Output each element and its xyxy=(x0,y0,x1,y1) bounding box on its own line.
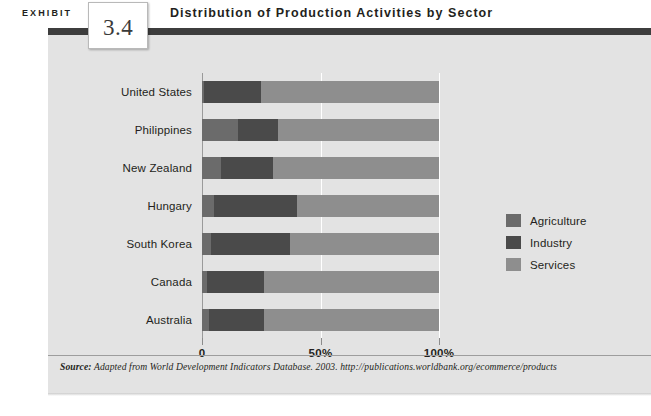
bar-segment-industry xyxy=(238,119,278,141)
stacked-bar xyxy=(202,309,439,331)
source-divider xyxy=(48,355,651,356)
chart-row: New Zealand xyxy=(48,149,651,187)
category-label: South Korea xyxy=(52,225,202,263)
bar-segment-industry xyxy=(207,271,264,293)
tickmark-0 xyxy=(202,338,203,345)
stacked-bar xyxy=(202,233,439,255)
category-label: Philippines xyxy=(52,111,202,149)
tickmark-50% xyxy=(321,338,322,345)
bar-segment-agriculture xyxy=(202,119,238,141)
axis-tick-label: 0 xyxy=(199,347,206,359)
legend-label: Services xyxy=(530,259,575,271)
legend-swatch-industry xyxy=(506,236,521,249)
legend-label: Agriculture xyxy=(530,215,587,227)
bar-segment-services xyxy=(261,81,439,103)
legend-item: Services xyxy=(506,255,636,274)
legend-label: Industry xyxy=(530,237,572,249)
bar-segment-services xyxy=(297,195,439,217)
exhibit-title: Distribution of Production Activities by… xyxy=(170,6,493,20)
bar-segment-agriculture xyxy=(202,233,211,255)
category-label: Hungary xyxy=(52,187,202,225)
exhibit-number-badge: 3.4 xyxy=(88,2,148,49)
source-prefix: Source: xyxy=(60,361,92,372)
stacked-bar xyxy=(202,271,439,293)
panel-shadow xyxy=(48,393,651,396)
source-note: Source: Adapted from World Development I… xyxy=(60,361,645,372)
source-text: Adapted from World Development Indicator… xyxy=(94,361,557,372)
bar-segment-services xyxy=(278,119,439,141)
legend-item: Industry xyxy=(506,233,636,252)
stacked-bar xyxy=(202,81,439,103)
figure-panel: 050%100%United StatesPhilippinesNew Zeal… xyxy=(48,35,651,393)
axis-tick-label: 100% xyxy=(424,347,455,359)
chart-row: United States xyxy=(48,73,651,111)
exhibit-word: EXHIBIT xyxy=(22,8,72,18)
stacked-bar xyxy=(202,157,439,179)
bar-segment-industry xyxy=(209,309,264,331)
legend-swatch-services xyxy=(506,258,521,271)
chart-legend: AgricultureIndustryServices xyxy=(506,211,636,277)
bar-segment-industry xyxy=(221,157,273,179)
bar-segment-services xyxy=(273,157,439,179)
stacked-bar xyxy=(202,119,439,141)
exhibit-number: 3.4 xyxy=(89,3,147,48)
chart-row: Philippines xyxy=(48,111,651,149)
category-label: Canada xyxy=(52,263,202,301)
bar-segment-industry xyxy=(204,81,261,103)
legend-swatch-agriculture xyxy=(506,214,521,227)
bar-segment-services xyxy=(264,271,439,293)
bar-segment-services xyxy=(290,233,439,255)
bar-segment-services xyxy=(264,309,439,331)
category-label: New Zealand xyxy=(52,149,202,187)
axis-tick-label: 50% xyxy=(309,347,333,359)
chart-plot-area: 050%100%United StatesPhilippinesNew Zeal… xyxy=(48,35,651,355)
bar-segment-industry xyxy=(211,233,289,255)
bar-segment-agriculture xyxy=(202,157,221,179)
tickmark-100% xyxy=(439,338,440,345)
legend-item: Agriculture xyxy=(506,211,636,230)
stacked-bar xyxy=(202,195,439,217)
category-label: Australia xyxy=(52,301,202,339)
bar-segment-industry xyxy=(214,195,297,217)
chart-row: Australia xyxy=(48,301,651,339)
bar-segment-agriculture xyxy=(202,309,209,331)
category-label: United States xyxy=(52,73,202,111)
bar-segment-agriculture xyxy=(202,195,214,217)
